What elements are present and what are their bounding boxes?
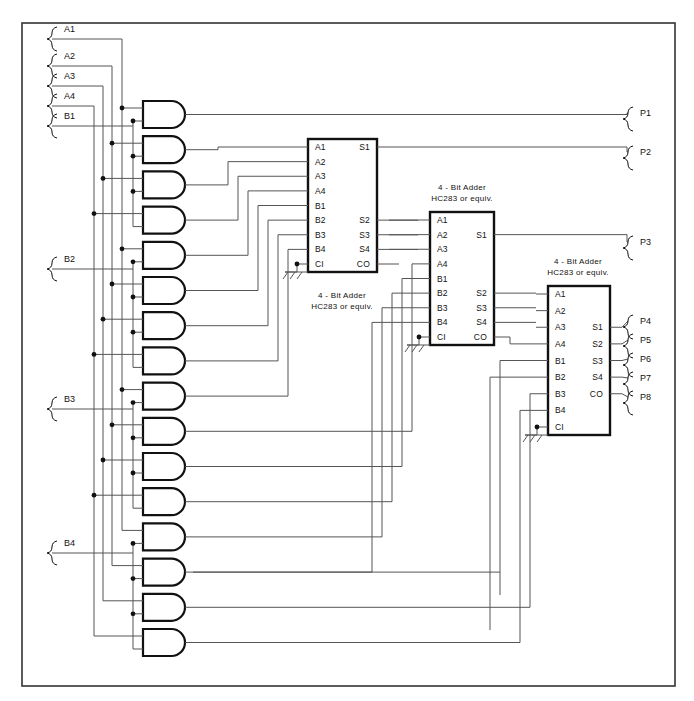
adder-pin-label-right: S4 — [359, 244, 370, 254]
adder-pin-label-left: B1 — [437, 274, 448, 284]
adder-pin-label-right: S2 — [476, 288, 487, 298]
adder-caption-line1: 4 - Bit Adder — [554, 257, 602, 266]
adder-caption-line2: HC283 or equiv. — [431, 194, 493, 203]
and-gate-body — [143, 629, 185, 656]
and-gate-body — [143, 488, 185, 515]
and-gate-body — [143, 559, 185, 586]
adder-pin-label-left: A4 — [555, 339, 566, 349]
schematic-canvas: A1A2A3A4B1B2B3B4CIS1S2S3S4CO4 - Bit Adde… — [0, 0, 694, 701]
junction-b4 — [131, 611, 136, 616]
adder-caption-line1: 4 - Bit Adder — [438, 183, 486, 192]
junction-ci-ground — [535, 425, 540, 430]
schematic-sheet: A1A2A3A4B1B2B3B4CIS1S2S3S4CO4 - Bit Adde… — [0, 0, 694, 701]
junction-b2 — [131, 330, 136, 335]
output-label: P6 — [640, 354, 651, 364]
junction-a1 — [120, 246, 125, 251]
adder-pin-label-left: A2 — [437, 230, 448, 240]
input-label: B1 — [64, 111, 75, 121]
input-label: A3 — [64, 71, 75, 81]
adder-pin-label-left: B3 — [315, 230, 326, 240]
junction-a2 — [110, 141, 115, 146]
adder-pin-label-right: S1 — [476, 230, 487, 240]
junction-a3 — [101, 458, 106, 463]
adder-pin-label-left: B1 — [555, 356, 566, 366]
junction-a2 — [110, 282, 115, 287]
and-gate-body — [143, 242, 185, 269]
adder-pin-label-left: B3 — [437, 303, 448, 313]
adder-pin-label-left: A2 — [555, 306, 566, 316]
junction-a4 — [92, 493, 97, 498]
junction-b4 — [131, 576, 136, 581]
junction-a2 — [110, 422, 115, 427]
adder-pin-label-right: S3 — [476, 303, 487, 313]
adder-pin-label-left: A1 — [315, 142, 326, 152]
input-label: A1 — [64, 24, 75, 34]
and-gate-body — [143, 347, 185, 374]
adder-pin-label-left: A3 — [555, 322, 566, 332]
and-gate-body — [143, 277, 185, 304]
adder-pin-label-left: B2 — [555, 372, 566, 382]
adder-pin-label-left: B3 — [555, 389, 566, 399]
junction-b3 — [131, 400, 136, 405]
and-gate-body — [143, 136, 185, 163]
output-label: P8 — [640, 392, 651, 402]
adder-caption-line2: HC283 or equiv. — [311, 302, 373, 311]
adder-pin-label-left: B2 — [315, 215, 326, 225]
adder-caption-line2: HC283 or equiv. — [547, 268, 609, 277]
input-label: B4 — [64, 538, 75, 548]
adder-pin-label-right: CO — [590, 389, 603, 399]
adder-pin-label-left: A1 — [555, 289, 566, 299]
junction-b1 — [131, 189, 136, 194]
adder-pin-label-left: B4 — [555, 405, 566, 415]
and-gate-body — [143, 312, 185, 339]
junction-b3 — [131, 435, 136, 440]
adder-pin-label-right: S3 — [359, 230, 370, 240]
junction-b2 — [131, 259, 136, 264]
junction-a1 — [120, 106, 125, 111]
junction-b1 — [131, 154, 136, 159]
adder-pin-label-right: CO — [474, 332, 487, 342]
adder-pin-label-left: CI — [315, 259, 324, 269]
and-gate-body — [143, 383, 185, 410]
adder-pin-label-left: A3 — [437, 244, 448, 254]
adder-pin-label-left: B4 — [315, 244, 326, 254]
adder-pin-label-left: A3 — [315, 171, 326, 181]
adder-pin-label-right: S1 — [592, 322, 603, 332]
junction-ci-ground — [417, 335, 422, 340]
and-gate-body — [143, 453, 185, 480]
input-label: B2 — [64, 254, 75, 264]
adder-pin-label-left: B1 — [315, 201, 326, 211]
input-label: A2 — [64, 51, 75, 61]
adder-pin-label-left: A4 — [437, 259, 448, 269]
and-gate-body — [143, 418, 185, 445]
junction-a4 — [92, 352, 97, 357]
adder-pin-label-right: CO — [357, 259, 370, 269]
output-label: P5 — [640, 335, 651, 345]
output-label: P7 — [640, 373, 651, 383]
input-label: B3 — [64, 394, 75, 404]
adder-pin-label-left: CI — [555, 422, 564, 432]
output-label: P3 — [640, 237, 651, 247]
adder-pin-label-right: S4 — [476, 317, 487, 327]
adder-pin-label-left: CI — [437, 332, 446, 342]
adder-pin-label-left: B4 — [437, 317, 448, 327]
and-gate-body — [143, 101, 185, 128]
junction-b2 — [131, 295, 136, 300]
adder-pin-label-right: S3 — [592, 356, 603, 366]
adder-pin-label-right: S2 — [592, 339, 603, 349]
adder-caption-line1: 4 - Bit Adder — [318, 291, 366, 300]
input-label: A4 — [64, 91, 75, 101]
junction-a1 — [120, 387, 125, 392]
and-gate-body — [143, 594, 185, 621]
junction-a4 — [92, 211, 97, 216]
junction-b3 — [131, 471, 136, 476]
output-label: P1 — [640, 108, 651, 118]
and-gate-body — [143, 207, 185, 234]
junction-a3 — [101, 176, 106, 181]
adder-pin-label-right: S1 — [359, 142, 370, 152]
output-label: P4 — [640, 316, 651, 326]
junction-b4 — [131, 541, 136, 546]
adder-pin-label-left: A2 — [315, 157, 326, 167]
junction-a3 — [101, 317, 106, 322]
output-label: P2 — [640, 147, 651, 157]
